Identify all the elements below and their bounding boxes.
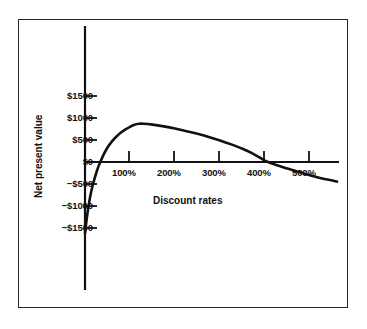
ytick-label-neg1500: −$1500 (62, 222, 93, 233)
xtick-label-400: 400% (247, 167, 271, 178)
ytick-label-neg500: −$500 (67, 178, 93, 189)
xtick-label-200: 200% (157, 167, 181, 178)
ytick-label-1000: $1000 (67, 112, 93, 123)
ytick-label-500: $500 (72, 134, 93, 145)
x-axis-ticks (129, 151, 309, 162)
xtick-label-300: 300% (202, 167, 226, 178)
chart-figure: $1500 $1000 $500 $0 −$500 −$1000 −$1500 … (0, 0, 367, 329)
x-axis-title: Discount rates (153, 195, 222, 206)
ytick-label-0: $0 (83, 156, 93, 167)
npv-curve (85, 124, 337, 234)
chart-plot-area (19, 20, 346, 306)
chart-frame-border: $1500 $1000 $500 $0 −$500 −$1000 −$1500 … (18, 19, 348, 308)
ytick-label-neg1000: −$1000 (62, 200, 93, 211)
xtick-label-100: 100% (112, 167, 136, 178)
ytick-label-1500: $1500 (67, 90, 93, 101)
xtick-label-500: 500% (292, 167, 316, 178)
y-axis-title: Net present value (33, 115, 44, 198)
